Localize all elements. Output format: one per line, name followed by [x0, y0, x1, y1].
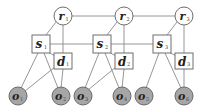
edge-r1-s1 [46, 22, 56, 35]
node-subscript: 2 [127, 61, 130, 67]
edge-s3-o5 [146, 53, 159, 88]
node-s3: s 3 [153, 35, 171, 53]
node-o4: o 4 [113, 87, 131, 105]
node-label: d [57, 55, 66, 69]
node-r2: r 2 [115, 7, 133, 25]
node-d1: d 1 [54, 53, 72, 69]
node-o1: o 1 [9, 87, 27, 105]
node-s1: s 1 [32, 35, 50, 53]
node-subscript: 2 [127, 16, 130, 22]
node-subscript: 1 [66, 61, 69, 67]
node-label: s [157, 37, 164, 51]
node-r1: r 1 [54, 7, 72, 25]
node-subscript: 1 [20, 96, 23, 102]
node-subscript: 3 [187, 16, 190, 22]
node-label: o [77, 90, 84, 103]
node-o2: o 2 [52, 87, 70, 105]
graphical-model-diagram: r 1 r 2 r 3 s 1 s 2 s 3 d 1 d 2 d 3 [0, 0, 210, 111]
node-subscript: 1 [66, 16, 69, 22]
node-label: o [55, 90, 62, 103]
node-subscript: 2 [63, 96, 66, 102]
node-subscript: 1 [44, 44, 47, 50]
edge-r3-s3 [167, 22, 177, 35]
node-label: o [116, 90, 123, 103]
edge-d1-o2 [61, 69, 63, 88]
node-subscript: 3 [187, 61, 190, 67]
node-label: o [12, 90, 19, 103]
node-subscript: 2 [105, 44, 108, 50]
node-subscript: 5 [146, 96, 149, 102]
node-d2: d 2 [115, 53, 133, 69]
node-d3: d 3 [175, 53, 193, 69]
node-s2: s 2 [93, 35, 111, 53]
node-subscript: 3 [165, 44, 168, 50]
node-o6: o 6 [175, 87, 193, 105]
node-r3: r 3 [175, 7, 193, 25]
node-label: s [97, 37, 104, 51]
node-subscript: 3 [85, 96, 88, 102]
edge-d2-o4 [122, 69, 124, 88]
node-o5: o 5 [135, 87, 153, 105]
node-o3: o 3 [74, 87, 92, 105]
node-label: o [138, 90, 145, 103]
node-label: o [178, 90, 185, 103]
node-label: d [118, 55, 127, 69]
node-subscript: 6 [186, 96, 189, 102]
node-label: s [36, 37, 43, 51]
node-label: d [178, 55, 187, 69]
edge-r2-s2 [107, 22, 117, 35]
node-subscript: 4 [124, 96, 127, 102]
